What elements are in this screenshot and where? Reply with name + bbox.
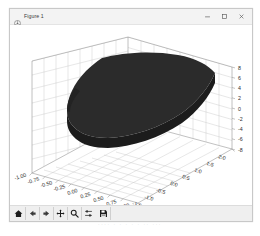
svg-text:-2: -2 [238, 116, 243, 122]
svg-text:8: 8 [238, 65, 241, 71]
svg-text:1.0: 1.0 [194, 167, 203, 175]
window-title: Figure 1 [24, 14, 199, 19]
zoom-button[interactable] [68, 207, 82, 220]
svg-text:-1.0: -1.0 [144, 193, 155, 201]
maximize-button[interactable] [216, 10, 233, 24]
figure-caption: ···· · · · · · ·· ··· [0, 223, 260, 228]
home-button[interactable] [12, 207, 26, 220]
svg-text:0.5: 0.5 [182, 173, 191, 181]
matplotlib-icon [14, 13, 21, 20]
navigation-toolbar [10, 205, 252, 221]
svg-text:0.50: 0.50 [93, 194, 105, 203]
back-button[interactable] [26, 207, 40, 220]
svg-text:1.5: 1.5 [206, 160, 215, 168]
svg-text:-6: -6 [238, 136, 243, 142]
svg-text:6: 6 [238, 75, 241, 81]
svg-text:4: 4 [238, 85, 241, 91]
surface-plot-3d: 8 6 4 2 0 -2 -4 -6 -8 [10, 25, 250, 205]
window-controls [199, 10, 250, 24]
svg-text:0: 0 [238, 106, 241, 112]
forward-button[interactable] [40, 207, 54, 220]
close-button[interactable] [233, 10, 250, 24]
svg-text:0.25: 0.25 [80, 191, 92, 200]
svg-text:2.0: 2.0 [218, 153, 227, 161]
pan-button[interactable] [54, 207, 68, 220]
svg-text:-0.75: -0.75 [27, 176, 40, 185]
svg-text:-0.25: -0.25 [53, 183, 66, 192]
svg-text:0.00: 0.00 [67, 187, 79, 196]
svg-text:-0.5: -0.5 [156, 187, 167, 195]
subplots-button[interactable] [82, 207, 95, 220]
svg-text:-8: -8 [238, 147, 243, 153]
svg-text:2: 2 [238, 95, 241, 101]
svg-text:0.0: 0.0 [170, 180, 179, 188]
figure-canvas[interactable]: 8 6 4 2 0 -2 -4 -6 -8 [10, 25, 252, 205]
save-button[interactable] [97, 207, 111, 220]
svg-text:0.75: 0.75 [106, 198, 118, 205]
svg-text:-1.00: -1.00 [14, 172, 27, 181]
figure-window: Figure 1 [9, 8, 253, 222]
svg-text:1.00: 1.00 [119, 202, 131, 205]
window-titlebar[interactable]: Figure 1 [10, 9, 252, 25]
svg-text:-4: -4 [238, 126, 243, 132]
z-axis: 8 6 4 2 0 -2 -4 -6 -8 [232, 65, 243, 153]
svg-text:-0.50: -0.50 [40, 179, 53, 188]
minimize-button[interactable] [199, 10, 216, 24]
screenshot-root: Figure 1 [0, 0, 260, 236]
